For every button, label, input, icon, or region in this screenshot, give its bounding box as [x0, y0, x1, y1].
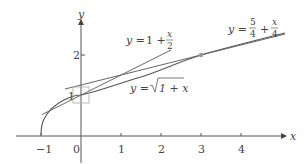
x-tick-label: 1 — [118, 143, 125, 156]
tangent-line-at-0 — [42, 50, 171, 115]
x-tick-label: −1 — [36, 143, 52, 156]
svg-text:1 + x: 1 + x — [159, 82, 189, 95]
svg-text:1 +: 1 + — [146, 34, 166, 47]
x-tick-label: 2 — [158, 143, 165, 156]
label-tangent-at-0: y = 1 + x 2 — [125, 29, 173, 51]
svg-text:y =: y = — [125, 34, 145, 47]
x-axis-label: x — [290, 130, 297, 143]
svg-text:x: x — [272, 17, 277, 27]
x-tick-label: 4 — [238, 143, 245, 156]
tangent-point — [199, 53, 203, 57]
diagram-canvas: −1 0 1 2 3 4 1 2 x y y = 1 + x 2 y = 1 +… — [0, 0, 308, 164]
y-tick-label: 2 — [73, 49, 80, 62]
x-tick-label: 0 — [73, 143, 80, 156]
svg-text:2: 2 — [167, 41, 173, 51]
y-axis-label: y — [77, 8, 85, 21]
svg-text:y =: y = — [129, 82, 149, 95]
label-tangent-at-3: y = 5 4 + x 4 — [227, 17, 278, 39]
svg-text:y =: y = — [227, 23, 247, 36]
svg-text:x: x — [167, 29, 172, 39]
svg-text:5: 5 — [250, 17, 256, 27]
diagram: −1 0 1 2 3 4 1 2 x y y = 1 + x 2 y = 1 +… — [0, 0, 308, 164]
x-tick-label: 3 — [198, 143, 205, 156]
svg-text:+: + — [260, 23, 269, 36]
label-sqrt-curve: y = 1 + x — [129, 78, 189, 95]
tangent-line-at-3 — [65, 34, 285, 89]
svg-text:4: 4 — [250, 29, 256, 39]
svg-text:4: 4 — [272, 29, 278, 39]
